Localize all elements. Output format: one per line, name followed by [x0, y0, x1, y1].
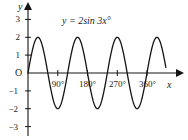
x-axis-label: x [167, 80, 171, 90]
sine-graph-figure: 3 2 1 −1 −2 −3 O 90° 180° 270° 360° y x … [0, 0, 188, 140]
y-tick-label-minus-1: −1 [0, 87, 18, 96]
y-axis-arrowhead [24, 2, 32, 10]
y-tick-label-minus-2: −2 [0, 105, 18, 114]
x-tick-label-180: 180° [72, 80, 103, 89]
y-tick-label-3: 3 [2, 15, 20, 24]
y-axis-label: y [18, 2, 22, 12]
x-tick-label-270: 270° [102, 80, 133, 89]
y-tick-label-minus-3: −3 [0, 123, 18, 132]
y-tick-label-2: 2 [2, 33, 20, 42]
origin-label: O [15, 68, 22, 78]
equation-annotation: y = 2sin 3x° [62, 16, 111, 26]
x-tick-label-360: 360° [132, 80, 163, 89]
x-axis-arrowhead [176, 69, 184, 77]
x-tick-label-90: 90° [45, 80, 71, 89]
y-tick-label-1: 1 [2, 51, 20, 60]
